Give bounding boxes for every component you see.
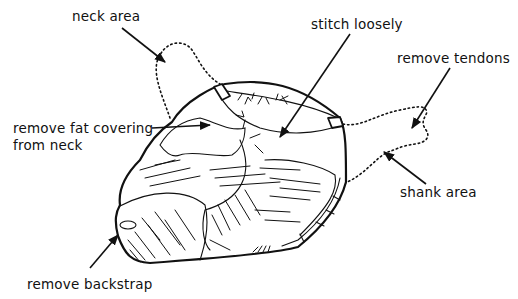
label-remove-backstrap: remove backstrap	[27, 276, 153, 293]
label-remove-fat-line2: from neck	[13, 137, 83, 154]
label-shank-area: shank area	[400, 184, 477, 201]
shank-dotted-outline	[343, 107, 428, 183]
label-stitch-loosely: stitch loosely	[311, 16, 403, 33]
meat-body-outline	[116, 82, 346, 263]
arrow-remove-tendons	[412, 68, 450, 128]
arrow-neck-area	[122, 28, 165, 62]
label-remove-fat-line1: remove fat covering	[13, 120, 153, 137]
label-neck-area: neck area	[72, 8, 140, 25]
arrow-remove-backstrap	[90, 235, 118, 268]
label-remove-tendons: remove tendons	[397, 50, 510, 67]
arrow-shank-area	[384, 152, 426, 184]
